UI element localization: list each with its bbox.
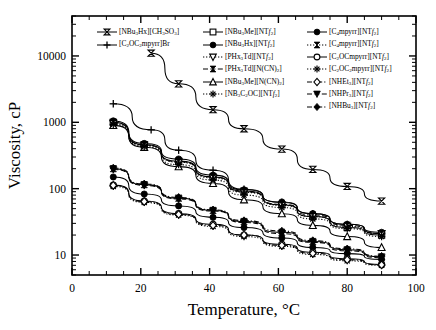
series-line [113,169,381,257]
data-point-open-square [210,29,216,35]
y-tick-label: 100 [49,183,67,195]
legend-column-2: [NBu3Me][NTf2][NBu3Hx][NTf2][PHx3Td][NTf… [202,26,306,113]
x-tick-label: 80 [341,282,353,294]
legend-marker-open-square-icon [202,26,224,38]
data-point-filled-circle [210,42,216,48]
y-tick-label: 10000 [37,50,66,62]
data-point-filled-diamond [314,103,320,110]
legend-label: [NB3C2OC][NTf2] [224,90,280,98]
legend-entry: [NBu3Hx][NTf2] [202,38,306,50]
legend-marker-plus-icon [96,39,118,51]
legend-entry: [NBu3Hx][CH3SO3] [96,26,202,38]
legend-label: [C2OC2mpyrr][NTf2] [328,65,392,73]
data-point-open-diamond [314,78,320,85]
data-point-filled-circle [110,174,116,180]
legend-column-1: [NBu3Hx][CH3SO3][C2OC2mpyrr]Br [96,26,202,113]
legend-marker-filled-diamond-icon [306,101,328,113]
legend-marker-open-diamond-icon [306,76,328,88]
x-tick-label: 20 [135,282,147,294]
legend-entry: [NB3C2OC][NTf2] [202,88,306,100]
legend-label: [PHx3Td][N(CN)2] [224,65,282,73]
legend: [NBu3Hx][CH3SO3][C2OC2mpyrr]Br[NBu3Me][N… [96,26,432,113]
legend-marker-filled-circle-icon [306,26,328,38]
x-tick-label: 60 [273,282,285,294]
legend-marker-bowtie-filled-icon [202,63,224,75]
series-line [113,104,381,234]
legend-entry: [C4mpyrr][NTf2] [306,38,432,50]
legend-entry: [NBu3Me][N(CN)2] [202,76,306,88]
legend-marker-filled-triangle-down-icon [306,88,328,100]
legend-marker-bowtie-icon [96,26,118,38]
legend-marker-bowtie-filled-icon [306,39,328,51]
legend-column-3: [C4mpyrr][NTf2][C4mpyrr][NTf2][C2OCmpyrr… [306,26,432,113]
legend-marker-open-triangle-up-icon [202,76,224,88]
y-axis-title: Viscosity, cP [5,102,24,190]
x-tick-label: 100 [407,282,425,294]
series-13 [110,166,385,261]
series-line [113,169,381,257]
legend-entry: [C4mpyrr][NTf2] [306,26,432,38]
legend-label: [C4mpyrr][NTf2] [328,40,379,48]
data-point-open-circle [314,54,320,60]
legend-label: [C2OC2mpyrr]Br [118,40,170,48]
series-14 [110,164,385,260]
legend-label: [NBu3Me][NTf2] [224,28,276,36]
y-tick-label: 10 [55,249,67,261]
legend-entry: [NHBu3][NTf2] [306,100,432,112]
series-line [113,123,381,233]
legend-label: [NBu3Hx][NTf2] [224,40,275,48]
legend-entry: [C2OCmpyrr][NTf2] [306,51,432,63]
x-axis-title: Temperature, °C [188,300,300,319]
x-tick-label: 40 [204,282,216,294]
data-point-filled-circle [314,29,320,35]
y-tick-label: 1000 [43,116,66,128]
x-tick-label: 0 [69,282,75,294]
legend-entry: [NBu3Me][NTf2] [202,26,306,38]
data-point-filled-circle [176,203,182,209]
series-line [113,168,381,256]
figure: 02040608010010100100010000Temperature, °… [0,0,436,330]
legend-label: [NBu3Me][N(CN)2] [224,78,284,86]
legend-label: [C4mpyrr][NTf2] [328,28,379,36]
legend-entry: [C2OC2mpyrr]Br [96,38,202,50]
legend-entry: [PHx3Td][NTf2] [202,51,306,63]
legend-entry: [PHx3Td][N(CN)2] [202,63,306,75]
legend-marker-star-icon [202,88,224,100]
data-point-filled-circle [141,191,147,197]
legend-label: [NHBu3][NTf2] [328,102,375,110]
legend-label: [NHEt3][NTf2] [328,78,373,86]
series-line [113,121,381,232]
legend-label: [NBu3Hx][CH3SO3] [118,28,179,36]
legend-entry: [C2OC2mpyrr][NTf2] [306,63,432,75]
legend-label: [PHx3Td][NTf2] [224,53,273,61]
series-9 [110,166,385,260]
legend-label: [C2OCmpyrr][NTf2] [328,53,389,61]
series-1 [110,100,386,237]
legend-label: [NHPr3][NTf2] [328,90,373,98]
legend-marker-filled-circle-icon [202,39,224,51]
legend-marker-open-circle-icon [306,51,328,63]
legend-entry: [NHEt3][NTf2] [306,76,432,88]
series-3 [110,118,385,236]
legend-marker-open-triangle-down-icon [202,51,224,63]
legend-entry: [NHPr3][NTf2] [306,88,432,100]
legend-marker-star-icon [306,63,328,75]
series-line [113,123,381,234]
